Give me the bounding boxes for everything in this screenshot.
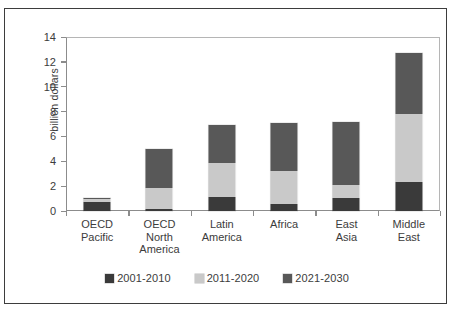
y-tick: 8 <box>0 106 66 118</box>
x-axis-label: OECDPacific <box>66 218 128 243</box>
bar-segment[interactable] <box>208 125 235 163</box>
x-axis-label: OECDNorthAmerica <box>128 218 190 256</box>
bar-segment[interactable] <box>395 182 422 211</box>
bar-segment[interactable] <box>395 53 422 114</box>
y-tick-label: 10 <box>44 81 56 93</box>
x-axis-label-line: East <box>378 231 440 244</box>
bar-segment[interactable] <box>271 204 298 211</box>
x-axis-label-line: East <box>315 218 377 231</box>
bar-segment[interactable] <box>208 163 235 197</box>
x-tick-mark <box>191 211 192 216</box>
bar-slot <box>253 37 315 211</box>
x-tick-mark <box>253 211 254 216</box>
bar-slot <box>378 37 440 211</box>
bar-group <box>66 37 440 211</box>
stacked-bar[interactable] <box>146 149 173 211</box>
legend-label: 2001-2010 <box>117 272 171 284</box>
x-axis-label-line: OECD <box>128 218 190 231</box>
x-axis-label-line: OECD <box>66 218 128 231</box>
y-tick: 2 <box>0 180 66 192</box>
y-tick-label: 2 <box>50 180 56 192</box>
y-tick: 12 <box>0 56 66 68</box>
y-tick: 4 <box>0 155 66 167</box>
x-axis-label: LatinAmerica <box>191 218 253 243</box>
x-axis-label-line: North <box>128 231 190 244</box>
legend-item[interactable]: 2011-2020 <box>195 272 260 284</box>
y-tick: 10 <box>0 81 66 93</box>
legend-swatch-icon <box>283 274 292 283</box>
bar-segment[interactable] <box>271 123 298 171</box>
y-tick-label: 14 <box>44 31 56 43</box>
bar-segment[interactable] <box>333 185 360 198</box>
stacked-bar[interactable] <box>84 198 111 211</box>
legend-swatch-icon <box>195 274 204 283</box>
x-axis-labels: OECDPacificOECDNorthAmericaLatinAmericaA… <box>66 218 440 266</box>
legend-item[interactable]: 2001-2010 <box>105 272 171 284</box>
legend-label: 2011-2020 <box>207 272 260 284</box>
x-tick-mark <box>440 211 441 216</box>
bar-slot <box>66 37 128 211</box>
bar-slot <box>191 37 253 211</box>
bar-segment[interactable] <box>146 149 173 188</box>
x-tick-mark <box>66 211 67 216</box>
y-tick-label: 6 <box>50 130 56 142</box>
x-axis-label-line: Africa <box>253 218 315 231</box>
x-axis-label: Africa <box>253 218 315 231</box>
bar-segment[interactable] <box>333 122 360 185</box>
x-axis-label: EastAsia <box>315 218 377 243</box>
bar-segment[interactable] <box>84 202 111 211</box>
y-tick: 14 <box>0 31 66 43</box>
y-tick-label: 0 <box>50 205 56 217</box>
bar-slot <box>128 37 190 211</box>
legend-swatch-icon <box>105 274 114 283</box>
chart: billion dollars 02468101214 OECDPacificO… <box>0 0 454 311</box>
bar-segment[interactable] <box>395 114 422 182</box>
stacked-bar[interactable] <box>208 125 235 211</box>
figure-container: billion dollars 02468101214 OECDPacificO… <box>0 0 454 311</box>
y-tick: 0 <box>0 205 66 217</box>
y-tick-label: 8 <box>50 106 56 118</box>
x-tick-mark <box>378 211 379 216</box>
y-tick-label: 12 <box>44 56 56 68</box>
x-axis-label-line: America <box>128 243 190 256</box>
bar-segment[interactable] <box>271 171 298 203</box>
stacked-bar[interactable] <box>333 122 360 211</box>
stacked-bar[interactable] <box>271 123 298 211</box>
x-axis-label-line: Latin <box>191 218 253 231</box>
chart-legend: 2001-20102011-20202021-2030 <box>0 272 454 284</box>
bar-segment[interactable] <box>146 188 173 209</box>
x-axis-label-line: Asia <box>315 231 377 244</box>
x-axis-label-line: Pacific <box>66 231 128 244</box>
y-tick: 6 <box>0 130 66 142</box>
bar-segment[interactable] <box>333 198 360 211</box>
x-axis-label-line: Middle <box>378 218 440 231</box>
x-tick-mark <box>315 211 316 216</box>
x-axis-label-line: America <box>191 231 253 244</box>
y-tick-label: 4 <box>50 155 56 167</box>
x-axis-label: MiddleEast <box>378 218 440 243</box>
stacked-bar[interactable] <box>395 53 422 211</box>
legend-label: 2021-2030 <box>295 272 349 284</box>
x-tick-mark <box>128 211 129 216</box>
legend-item[interactable]: 2021-2030 <box>283 272 349 284</box>
bar-slot <box>315 37 377 211</box>
bar-segment[interactable] <box>208 197 235 211</box>
bar-segment[interactable] <box>146 209 173 211</box>
